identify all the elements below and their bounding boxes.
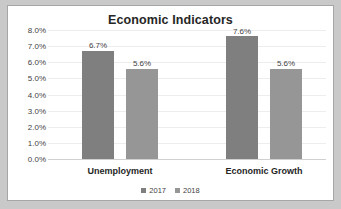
- y-axis-tick: 0.0%: [8, 155, 46, 164]
- y-axis-tick: 4.0%: [8, 90, 46, 99]
- legend-swatch-icon: [141, 188, 146, 193]
- legend-item-2017[interactable]: 2017: [141, 186, 166, 195]
- y-axis-tick: 2.0%: [8, 122, 46, 131]
- bar-2017-unemployment[interactable]: [82, 51, 114, 159]
- chart-frame: Economic Indicators 8.0% 7.0% 6.0% 5.0% …: [7, 5, 334, 201]
- legend-label: 2018: [183, 186, 200, 195]
- y-axis-tick: 8.0%: [8, 26, 46, 35]
- bar-value-label-2017-economic-growth: 7.6%: [233, 27, 251, 36]
- category-label-unemployment: Unemployment: [87, 166, 152, 176]
- x-axis-line: [48, 159, 326, 160]
- chart-legend: 2017 2018: [8, 186, 333, 195]
- bar-value-label-2018-unemployment: 5.6%: [133, 59, 151, 68]
- y-axis-tick: 3.0%: [8, 106, 46, 115]
- bar-2018-economic-growth[interactable]: [270, 69, 302, 159]
- gridline: [48, 30, 326, 31]
- y-axis-tick: 5.0%: [8, 74, 46, 83]
- y-axis-tick: 7.0%: [8, 42, 46, 51]
- bar-2018-unemployment[interactable]: [126, 69, 158, 159]
- category-label-economic-growth: Economic Growth: [225, 166, 302, 176]
- bar-2017-economic-growth[interactable]: [226, 36, 258, 159]
- y-axis-tick: 6.0%: [8, 58, 46, 67]
- legend-item-2018[interactable]: 2018: [175, 186, 200, 195]
- legend-label: 2017: [149, 186, 166, 195]
- chart-title: Economic Indicators: [8, 13, 333, 27]
- bar-value-label-2017-unemployment: 6.7%: [89, 41, 107, 50]
- bar-value-label-2018-economic-growth: 5.6%: [277, 59, 295, 68]
- y-axis-tick: 1.0%: [8, 138, 46, 147]
- legend-swatch-icon: [175, 188, 180, 193]
- y-axis: 8.0% 7.0% 6.0% 5.0% 4.0% 3.0% 2.0% 1.0% …: [8, 30, 46, 159]
